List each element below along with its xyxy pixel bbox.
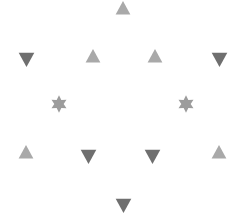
triangle-down-icon <box>211 51 228 68</box>
six-point-star-icon <box>50 95 68 113</box>
six-point-star-icon <box>177 95 195 113</box>
triangle-down-icon <box>115 197 132 214</box>
triangle-down-icon <box>18 51 35 68</box>
triangle-down-icon <box>80 148 97 165</box>
triangle-up-icon <box>18 144 34 160</box>
triangle-up-icon <box>85 48 101 64</box>
shape-pattern-canvas <box>0 0 237 217</box>
triangle-up-icon <box>115 0 131 16</box>
triangle-up-icon <box>147 48 163 64</box>
triangle-down-icon <box>144 148 161 165</box>
triangle-up-icon <box>211 144 227 160</box>
